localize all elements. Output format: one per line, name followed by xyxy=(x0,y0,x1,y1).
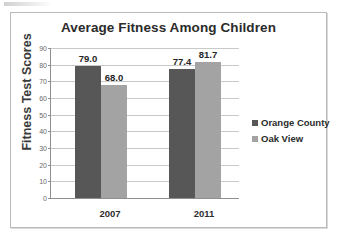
scan-artifact xyxy=(4,2,50,6)
legend-label: Oak View xyxy=(261,133,303,144)
legend-item[interactable]: Oak View xyxy=(252,133,330,144)
chart-title: Average Fitness Among Children xyxy=(11,20,326,35)
legend-item[interactable]: Orange County xyxy=(252,117,330,128)
bar-value-label: 81.7 xyxy=(199,49,218,60)
y-axis-tick-label: 80 xyxy=(39,61,47,68)
y-axis-tick-label: 30 xyxy=(39,145,47,152)
bar-value-label: 68.0 xyxy=(105,72,124,83)
legend-swatch-icon xyxy=(252,136,258,142)
bar-value-label: 77.4 xyxy=(173,56,192,67)
chart-frame: Average Fitness Among Children Fitness T… xyxy=(10,12,327,228)
legend-label: Orange County xyxy=(261,117,330,128)
bar[interactable]: 79.0 xyxy=(75,66,101,198)
bar-value-label: 79.0 xyxy=(79,53,98,64)
y-axis-tick-label: 10 xyxy=(39,178,47,185)
y-axis-tick-label: 70 xyxy=(39,78,47,85)
y-axis-tick-label: 20 xyxy=(39,161,47,168)
plot-area: 0102030405060708090 79.068.0200777.481.7… xyxy=(50,48,239,199)
y-axis-tick-label: 50 xyxy=(39,111,47,118)
y-axis-tickmark xyxy=(48,198,51,199)
y-axis-title: Fitness Test Scores xyxy=(20,32,34,152)
y-axis-tick-label: 90 xyxy=(39,45,47,52)
y-axis-tick-label: 40 xyxy=(39,128,47,135)
x-axis-tick-label: 2011 xyxy=(194,208,215,219)
bar[interactable]: 77.4 xyxy=(169,69,195,198)
y-axis-tick-label: 0 xyxy=(43,195,47,202)
legend-swatch-icon xyxy=(252,120,258,126)
bar[interactable]: 81.7 xyxy=(195,62,221,198)
chart-legend: Orange CountyOak View xyxy=(252,117,330,149)
x-axis-tick-label: 2007 xyxy=(99,208,120,219)
bar[interactable]: 68.0 xyxy=(101,85,127,198)
y-axis-tick-label: 60 xyxy=(39,95,47,102)
bar-group: 77.481.72011 xyxy=(145,48,263,198)
